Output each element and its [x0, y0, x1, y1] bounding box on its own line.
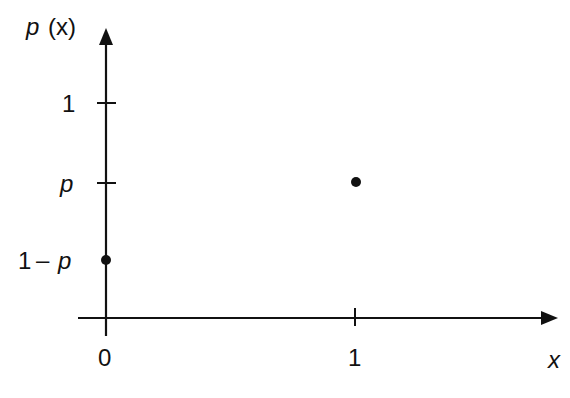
ylabel-p: p — [25, 13, 39, 40]
ytick-1mp-minus: – — [36, 246, 50, 273]
point-x0 — [101, 255, 111, 265]
ylabel-paren: (x) — [48, 13, 76, 40]
ytick-1-label: 1 — [62, 90, 75, 117]
ytick-p-label: p — [59, 170, 73, 197]
x-axis-arrow-icon — [541, 311, 558, 325]
ytick-1mp-num: 1 — [18, 247, 31, 274]
ytick-1mp-p: p — [57, 247, 71, 274]
xtick-0-label: 0 — [98, 344, 111, 371]
point-x1 — [351, 177, 361, 187]
pmf-chart: p (x) 1 p 1 – p 0 1 x — [0, 0, 570, 398]
xlabel: x — [547, 346, 561, 373]
y-axis-arrow-icon — [99, 28, 113, 45]
xtick-1-label: 1 — [348, 344, 361, 371]
